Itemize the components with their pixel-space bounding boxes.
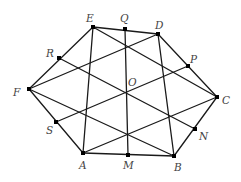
label-b: B xyxy=(173,161,182,173)
label-m: M xyxy=(122,159,134,171)
segment-db xyxy=(158,34,174,156)
point-m-marker xyxy=(126,153,130,157)
hexagon-diagram: ABCDEFMNPQRSO xyxy=(0,0,241,182)
label-e: E xyxy=(85,12,94,24)
segment-fd xyxy=(29,34,158,89)
segment-ec xyxy=(93,27,217,97)
point-c-marker xyxy=(215,95,219,99)
label-q: Q xyxy=(120,12,129,25)
point-f-marker xyxy=(27,87,31,91)
label-o: O xyxy=(128,76,137,88)
label-s: S xyxy=(46,124,53,136)
point-s-marker xyxy=(54,120,58,124)
label-f: F xyxy=(12,86,21,98)
point-r-marker xyxy=(57,56,61,60)
point-q-marker xyxy=(123,27,127,31)
label-d: D xyxy=(154,19,164,31)
segment-ea xyxy=(83,27,93,153)
point-b-marker xyxy=(172,154,176,158)
label-c: C xyxy=(222,94,230,106)
label-a: A xyxy=(78,159,87,171)
label-r: R xyxy=(45,47,54,59)
point-a-marker xyxy=(81,151,85,155)
point-n-marker xyxy=(193,127,197,131)
point-d-marker xyxy=(156,32,160,36)
label-n: N xyxy=(198,130,209,142)
labels-group: ABCDEFMNPQRSO xyxy=(12,12,230,173)
label-p: P xyxy=(189,53,198,65)
point-e-marker xyxy=(91,25,95,29)
segments-group xyxy=(29,27,217,156)
